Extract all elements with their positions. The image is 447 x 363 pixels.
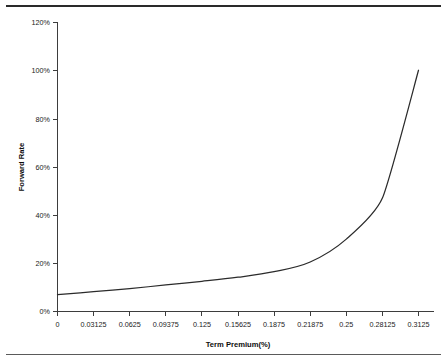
x-tick-label-0: 0 xyxy=(56,320,60,329)
scanned-page: 0% 20% 40% 60% 80% 100% 120% xyxy=(0,0,447,363)
y-axis-title: Forward Rate xyxy=(17,143,26,192)
x-tick-label-10: 0.3125 xyxy=(408,320,430,329)
x-axis-title: Term Premium(%) xyxy=(206,340,271,349)
x-tick-label-1: 0.03125 xyxy=(81,320,107,329)
x-tick-label-4: 0.125 xyxy=(193,320,211,329)
y-tick-label-60: 60% xyxy=(36,163,51,172)
x-tick-label-9: 0.28125 xyxy=(369,320,395,329)
y-tick-label-120: 120% xyxy=(32,18,51,27)
x-tick-label-7: 0.21875 xyxy=(297,320,323,329)
x-tick-label-6: 0.1875 xyxy=(263,320,285,329)
forward-rate-chart: 0% 20% 40% 60% 80% 100% 120% xyxy=(0,8,447,356)
chart-canvas: 0% 20% 40% 60% 80% 100% 120% xyxy=(0,8,447,356)
x-axis-ticks xyxy=(58,312,419,317)
y-tick-label-40: 40% xyxy=(36,211,51,220)
x-tick-label-3: 0.09375 xyxy=(153,320,179,329)
y-tick-label-20: 20% xyxy=(36,259,51,268)
y-tick-label-0: 0% xyxy=(40,307,51,316)
x-tick-label-8: 0.25 xyxy=(339,320,353,329)
y-tick-label-100: 100% xyxy=(32,66,51,75)
y-axis-ticks xyxy=(53,23,58,312)
page-rule-top xyxy=(6,5,441,7)
x-tick-label-5: 0.15625 xyxy=(225,320,251,329)
forward-rate-series-line xyxy=(58,70,419,294)
x-tick-label-2: 0.0625 xyxy=(119,320,141,329)
y-tick-label-80: 80% xyxy=(36,115,51,124)
